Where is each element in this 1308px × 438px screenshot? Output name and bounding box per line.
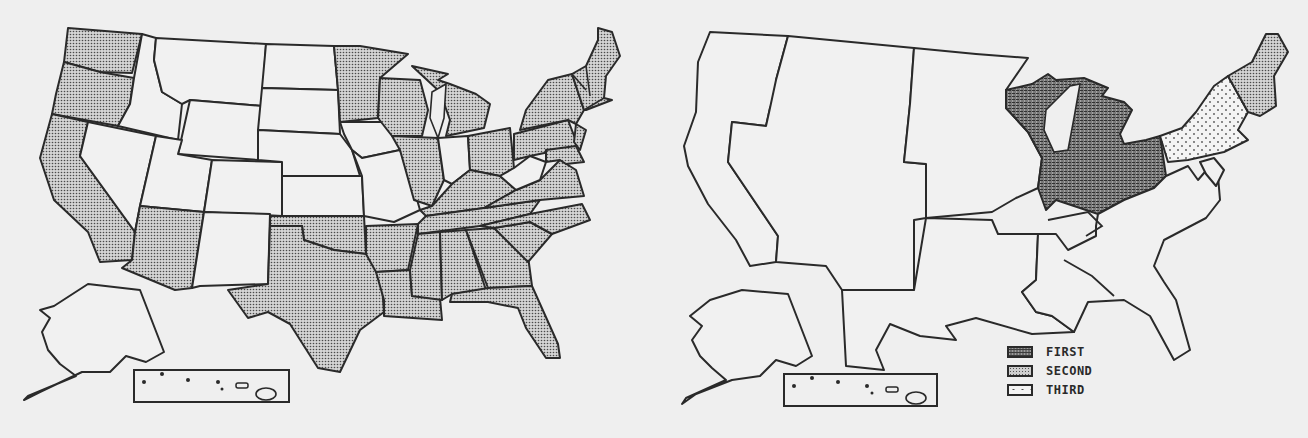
hawaii-inset — [134, 370, 289, 402]
state-wi — [378, 78, 428, 136]
state-ks — [282, 176, 364, 216]
legend-label: SECOND — [1046, 364, 1092, 378]
state-md — [546, 146, 584, 164]
state-co — [204, 160, 282, 216]
state-fl — [450, 286, 560, 358]
legend-label: FIRST — [1046, 345, 1085, 359]
legend: FIRST SECOND THIRD — [1007, 343, 1092, 400]
state-nd — [262, 44, 338, 90]
legend-item-first: FIRST — [1007, 343, 1092, 361]
state-oh — [468, 128, 514, 176]
lake-michigan — [430, 84, 446, 138]
state-mt — [154, 38, 266, 106]
second-pattern-swatch-icon — [1007, 365, 1033, 377]
first-pattern-swatch-icon — [1007, 346, 1033, 358]
legend-label: THIRD — [1046, 383, 1085, 397]
hawaii-inset-right — [784, 374, 937, 406]
right-us-map — [676, 0, 1308, 438]
left-us-map — [0, 0, 640, 438]
state-sd — [258, 88, 340, 134]
state-wy — [178, 100, 262, 160]
state-nm — [192, 212, 270, 288]
legend-item-second: SECOND — [1007, 362, 1092, 380]
legend-item-third: THIRD — [1007, 381, 1092, 399]
figure: FIRST SECOND THIRD — [0, 0, 1308, 438]
third-pattern-swatch-icon — [1007, 384, 1033, 396]
state-new-england — [572, 28, 620, 110]
